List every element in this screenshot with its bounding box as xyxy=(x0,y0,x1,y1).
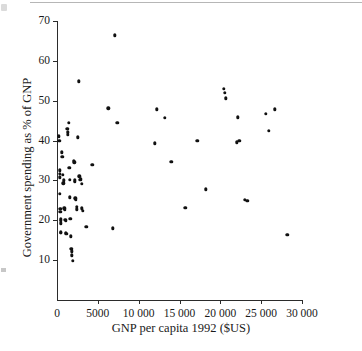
scan-corner-artifact xyxy=(1,4,7,11)
data-point xyxy=(224,97,227,100)
data-point xyxy=(73,180,76,183)
data-point xyxy=(62,179,65,182)
data-point xyxy=(61,173,64,176)
x-tick xyxy=(139,300,140,304)
y-axis-label: Government spending as % of GNP xyxy=(20,48,35,288)
data-point xyxy=(75,207,78,210)
x-axis-label: GNP per capita 1992 ($US) xyxy=(0,321,362,336)
data-point xyxy=(264,112,267,115)
data-point xyxy=(64,219,67,222)
x-tick xyxy=(261,300,262,304)
data-point xyxy=(184,206,187,209)
data-point xyxy=(69,235,72,238)
data-point xyxy=(58,192,61,195)
data-point xyxy=(61,155,64,158)
data-point xyxy=(62,182,65,185)
y-axis-line xyxy=(57,21,58,300)
y-tick-label: 40 xyxy=(39,135,51,147)
scan-edge-artifact xyxy=(1,268,6,272)
data-point xyxy=(68,178,71,181)
data-point xyxy=(68,166,71,169)
data-point xyxy=(72,161,75,164)
y-tick xyxy=(53,61,57,62)
data-point xyxy=(113,34,116,37)
y-tick-label: 10 xyxy=(39,254,51,266)
data-point xyxy=(267,129,270,132)
data-point xyxy=(237,139,240,142)
data-point xyxy=(66,133,69,136)
data-point xyxy=(69,217,72,220)
y-tick-label: 70 xyxy=(39,15,51,27)
data-point xyxy=(71,259,74,262)
y-tick xyxy=(53,260,57,261)
x-tick xyxy=(302,300,303,304)
x-tick xyxy=(180,300,181,304)
data-point xyxy=(77,79,80,82)
x-tick xyxy=(220,300,221,304)
data-point xyxy=(236,116,239,119)
data-point xyxy=(65,232,68,235)
data-point xyxy=(153,142,156,145)
y-tick xyxy=(53,21,57,22)
data-point xyxy=(70,254,73,257)
y-tick xyxy=(53,180,57,181)
x-tick-label: 30 000 xyxy=(286,308,318,320)
data-point xyxy=(79,177,82,180)
data-point xyxy=(155,108,158,111)
x-tick-label: 20 000 xyxy=(205,308,237,320)
data-point xyxy=(74,198,77,201)
y-tick-label: 30 xyxy=(39,175,51,187)
data-point xyxy=(116,121,119,124)
data-point xyxy=(111,227,114,230)
data-point xyxy=(59,210,62,213)
x-tick-label: 25 000 xyxy=(245,308,277,320)
data-point xyxy=(63,208,66,211)
y-tick xyxy=(53,101,57,102)
data-point xyxy=(163,116,166,119)
x-tick-label: 5000 xyxy=(86,308,109,320)
y-tick xyxy=(53,220,57,221)
data-point xyxy=(273,108,276,111)
plot-area: 10203040506070 0500010 00015 00020 00025… xyxy=(57,21,302,300)
x-tick-label: 15 000 xyxy=(164,308,196,320)
data-point xyxy=(85,225,88,228)
data-point xyxy=(204,187,207,190)
y-tick-label: 60 xyxy=(39,55,51,67)
data-point xyxy=(107,107,110,110)
data-point xyxy=(246,199,249,202)
data-point xyxy=(223,91,226,94)
y-tick-label: 20 xyxy=(39,215,51,227)
data-point xyxy=(67,121,70,124)
x-tick-label: 0 xyxy=(54,308,60,320)
data-point xyxy=(68,195,71,198)
y-tick xyxy=(53,141,57,142)
x-tick xyxy=(98,300,99,304)
data-point xyxy=(222,87,225,90)
data-point xyxy=(286,233,289,236)
data-point xyxy=(60,150,63,153)
data-point xyxy=(57,134,60,137)
data-point xyxy=(59,222,62,225)
data-point xyxy=(80,182,83,185)
data-point xyxy=(81,209,84,212)
scan-line-artifact xyxy=(30,2,362,3)
data-point xyxy=(196,139,199,142)
data-point xyxy=(76,136,79,139)
data-point xyxy=(70,250,73,253)
data-point xyxy=(90,163,93,166)
data-point xyxy=(58,139,61,142)
data-point xyxy=(59,231,62,234)
y-tick-label: 50 xyxy=(39,95,51,107)
x-tick-label: 10 000 xyxy=(123,308,155,320)
data-point xyxy=(170,160,173,163)
scatter-plot-figure: 10203040506070 0500010 00015 00020 00025… xyxy=(0,0,362,351)
